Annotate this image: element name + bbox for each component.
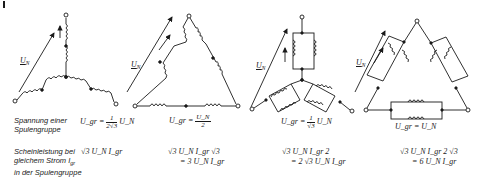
voltage-formula-2: U_gr = U_N2 xyxy=(169,114,211,129)
power-formula-3: √3 U_N I_gr 2 = 2 √3 U_N I_gr xyxy=(282,147,346,167)
star-parallel-circuit xyxy=(250,15,354,113)
voltage-arrow-label-4: UN xyxy=(356,58,365,68)
power-formula-4: √3 U_N I_gr 2 √3 = 6 U_N I_gr xyxy=(400,147,458,167)
power-formula-2: √3 U_N I_gr √3 = 3 U_N I_gr xyxy=(168,147,224,167)
voltage-formula-3: U_gr = 1√3 U_N xyxy=(281,115,332,130)
row-label-voltage: Spannung einer Spulengruppe xyxy=(14,116,67,134)
power-formula-1: √3 U_N I_gr xyxy=(81,147,122,157)
voltage-arrow-label-3: UN xyxy=(256,61,265,71)
voltage-formula-1: U_gr = 12√3 U_N xyxy=(80,115,134,130)
voltage-arrow-label-1: UN xyxy=(20,56,29,66)
voltage-arrow-label-2: UN xyxy=(131,60,140,70)
delta-parallel-circuit xyxy=(355,19,470,119)
delta-series-circuit xyxy=(127,14,240,108)
voltage-formula-4: U_gr = U_N xyxy=(395,122,436,132)
row-label-power: Scheinleistung bei gleichem Strom Igr in… xyxy=(14,147,82,177)
